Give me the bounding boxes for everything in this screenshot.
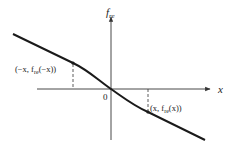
point-neg-label: (−x, fre(−x)) [15, 64, 56, 75]
point-neg [71, 61, 74, 64]
x-axis-label: x [217, 83, 223, 95]
function-curve [13, 34, 205, 140]
y-axis-label: fre [106, 6, 115, 20]
origin-label: 0 [103, 92, 108, 102]
odd-function-diagram: fre x 0 (−x, fre(−x)) (x, fre(x)) [0, 0, 233, 155]
point-pos-label: (x, fre(x)) [150, 103, 182, 114]
